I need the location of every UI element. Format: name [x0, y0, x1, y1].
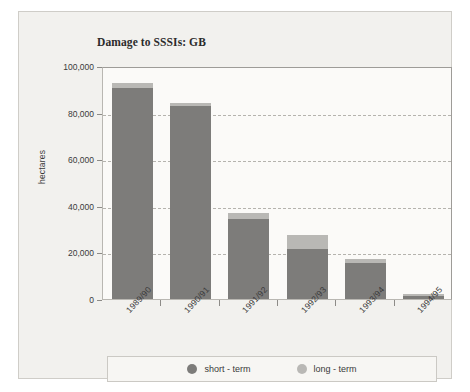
legend-item: long - term — [297, 364, 357, 374]
chart-card: Damage to SSSIs: GB hectares short - ter… — [18, 11, 452, 379]
y-tick-label: 20,000 — [32, 248, 94, 258]
bar-segment-short-term — [112, 88, 153, 299]
bar-group — [287, 66, 328, 299]
y-tick-label: 80,000 — [32, 109, 94, 119]
gridline — [103, 208, 451, 209]
y-tick-label: 60,000 — [32, 155, 94, 165]
y-tick-label: 100,000 — [32, 62, 94, 72]
bar-group — [403, 66, 444, 299]
x-tick-mark — [335, 300, 336, 306]
x-tick-mark — [394, 300, 395, 306]
bar-group — [228, 66, 269, 299]
legend-swatch-circle-icon — [187, 364, 197, 374]
y-tick-mark — [97, 114, 102, 115]
gridline — [103, 254, 451, 255]
y-tick-label: 40,000 — [32, 202, 94, 212]
bar-segment-short-term — [170, 106, 211, 299]
y-tick-mark — [97, 207, 102, 208]
legend-label: long - term — [314, 364, 357, 374]
x-tick-mark — [160, 300, 161, 306]
legend-label: short - term — [204, 364, 250, 374]
y-tick-mark — [97, 160, 102, 161]
legend-swatch-circle-icon — [297, 364, 307, 374]
y-tick-mark — [97, 253, 102, 254]
x-tick-mark — [219, 300, 220, 306]
bar-group — [345, 66, 386, 299]
chart-title: Damage to SSSIs: GB — [97, 36, 206, 48]
x-tick-mark — [277, 300, 278, 306]
figure-canvas: Damage to SSSIs: GB hectares short - ter… — [0, 0, 470, 392]
y-tick-mark — [97, 67, 102, 68]
y-tick-label: 0 — [32, 295, 94, 305]
bar-group — [112, 66, 153, 299]
bar-segment-long-term — [287, 235, 328, 249]
gridline — [103, 115, 451, 116]
y-tick-mark — [97, 300, 102, 301]
plot-area — [102, 67, 452, 300]
legend-item: short - term — [187, 364, 250, 374]
bar-group — [170, 66, 211, 299]
gridline — [103, 161, 451, 162]
chart-legend: short - termlong - term — [107, 356, 437, 382]
